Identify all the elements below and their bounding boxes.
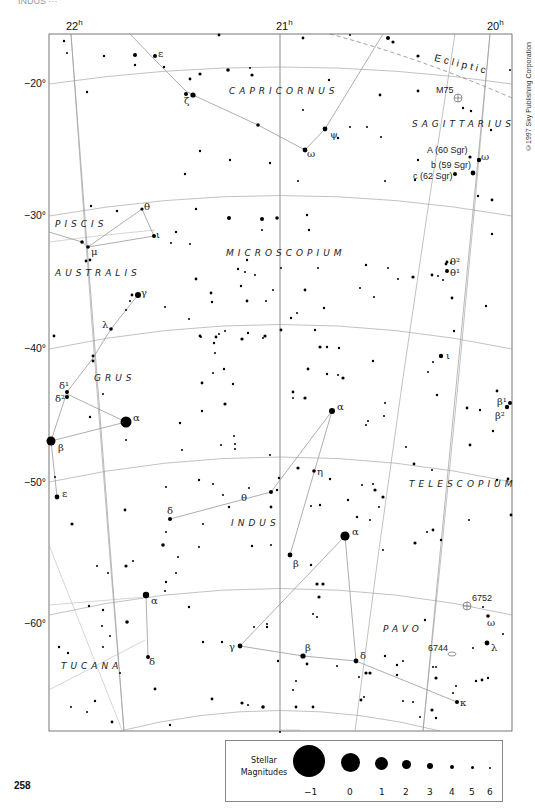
mag-dot-4 [450,765,454,769]
constellation-pavo: PAVO [383,624,423,634]
star-label: θ [144,201,150,212]
legend-title-line2: Magnitudes [236,767,292,779]
copyright-notice: ©1997 Sky Publishing Corporation [525,42,532,151]
star-label: θ [241,492,247,503]
mag-label: 1 [379,787,385,797]
star-label: ε [158,48,163,59]
mag-label: 4 [449,787,455,797]
star-label: ι [156,229,160,240]
star-label: θ¹ [450,267,460,278]
dec-label-60: −60° [24,617,46,629]
label-m75: M75 [436,85,454,95]
dec-label-20: −20° [24,77,46,89]
star-label: ω [307,148,315,159]
ra-unit: h [78,18,82,27]
star-label: μ [91,246,98,257]
ra-value: 21 [276,20,288,32]
constellation-grus: GRUS [94,373,136,383]
mag-label: 2 [403,787,409,797]
star-label: λ [491,642,497,653]
label-ngc6744: 6744 [428,643,448,653]
star-label: δ² [55,393,65,404]
constellation-lines [49,34,457,702]
star-label: ζ [184,95,189,106]
star-label: θ² [450,256,460,267]
star-label: α [151,595,158,606]
dec-label-30: −30° [24,209,46,221]
star-label: β [58,442,64,453]
ra-label-22h: 22h [66,18,83,32]
star-label: γ [229,641,235,652]
star-label: β² [495,410,505,421]
magnitude-legend: Stellar Magnitudes −1 0 1 2 3 4 5 6 [225,740,503,802]
constellation-australis: AUSTRALIS [55,268,141,278]
mag-label: 6 [487,787,493,797]
star-label: ε [62,488,67,499]
constellation-telescopium: TELESCOPIUM [409,479,516,489]
mag-dot-6 [489,767,491,769]
legend-title-line1: Stellar [236,755,292,767]
star-label: λ [102,319,108,330]
dec-label-40: −40° [24,342,46,354]
star-label: c (62 Sgr) [413,171,453,181]
ngc6744-symbol [448,652,456,656]
mag-dot-5 [471,766,474,769]
mag-dot-1 [375,757,388,770]
ra-unit: h [499,18,503,27]
star-label: δ¹ [59,380,69,391]
ra-value: 20 [487,20,499,32]
constellation-microscopium: MICROSCOPIUM [226,248,346,258]
mag-dot--1 [293,745,325,777]
star-label: b (59 Sgr) [431,160,471,170]
star-label: δ [149,656,155,667]
ra-label-21h: 21h [276,18,293,32]
star-label: ι [446,350,450,361]
star-label: δ [167,505,173,516]
star-label: β¹ [497,396,507,407]
star-label: α [337,401,344,412]
label-ngc6752: 6752 [472,593,492,603]
constellation-indus: INDUS [231,518,280,528]
dec-label-50: −50° [24,476,46,488]
mag-dot-2 [402,760,411,769]
star-label: ω [481,151,489,162]
ra-value: 22 [66,20,78,32]
star-label: κ [460,697,466,708]
mag-label: 0 [347,787,353,797]
star-label: β [293,558,299,569]
constellation-sagittarius: SAGITTARIUS [412,119,515,129]
star-label: δ [360,650,366,661]
legend-title: Stellar Magnitudes [236,755,292,779]
mag-dot-0 [341,753,360,772]
constellation-capricornus: CAPRICORNUS [229,86,338,96]
star-label: η [317,466,323,477]
page-number: 258 [14,780,31,791]
mag-label: 5 [469,787,475,797]
star-label: ψ [330,129,338,140]
star-label: α [133,412,140,423]
star-label: A (60 Sgr) [427,145,468,155]
star-label: α [352,526,359,537]
mag-dot-3 [427,763,433,769]
constellation-piscis: PISCIS [55,219,107,229]
star-label: β [305,642,311,653]
mag-label: −1 [304,787,317,797]
constellation-tucana: TUCANA [61,661,122,671]
star-label: γ [141,287,147,298]
mag-label: 3 [427,787,433,797]
ra-unit: h [288,18,292,27]
ra-label-20h: 20h [487,18,504,32]
star-label: ω [487,617,495,628]
